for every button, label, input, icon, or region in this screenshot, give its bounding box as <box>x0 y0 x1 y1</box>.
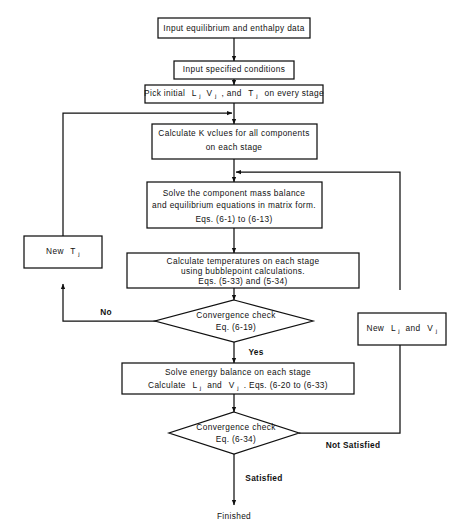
pick-initial-part2: , and <box>222 88 242 98</box>
node-convergence-check-1[interactable] <box>155 300 313 342</box>
solve-energy-var1: L <box>192 380 197 390</box>
pick-initial-var2: V <box>207 88 213 98</box>
node-solve-mass-balance-line1: Solve the component mass balance <box>163 188 306 198</box>
node-finished-label: Finished <box>217 511 251 521</box>
new-lj-vj-var1: L <box>391 323 396 333</box>
node-convergence-check-1-line1: Convergence check <box>196 310 276 320</box>
new-tj-prefix: New <box>46 246 64 256</box>
node-new-tj-label: New T j <box>46 246 80 257</box>
node-solve-mass-balance-line3: Eqs. (6-1) to (6-13) <box>195 214 272 224</box>
new-lj-vj-sub2: j <box>435 327 438 334</box>
flowchart-canvas: Input equilibrium and enthalpy data Inpu… <box>0 0 465 532</box>
edge-label-satisfied: Satisfied <box>245 473 282 483</box>
edge-convergence1-no-to-new-tj <box>63 284 170 321</box>
edge-label-yes: Yes <box>248 347 263 357</box>
node-convergence-check-2[interactable] <box>169 412 299 454</box>
node-solve-energy-balance-line1: Solve energy balance on each stage <box>165 367 311 377</box>
pick-initial-sub2: j <box>214 92 217 99</box>
solve-energy-line2a: Calculate <box>148 380 186 390</box>
node-calculate-temperatures-line3: Eqs. (5-33) and (5-34) <box>198 276 287 286</box>
node-convergence-check-1-line2: Eq. (6-19) <box>216 322 256 332</box>
pick-initial-part3: on every stage <box>265 88 324 98</box>
new-tj-sub: j <box>77 250 80 257</box>
solve-energy-line2b: . Eqs. (6-20 to (6-33) <box>244 380 328 390</box>
new-lj-vj-sub1: j <box>397 327 400 334</box>
solve-energy-sub1: j <box>199 384 202 391</box>
solve-energy-sub2: j <box>236 384 239 391</box>
node-calculate-k-values-line1: Calculate K vclues for all components <box>158 128 309 138</box>
edge-label-no: No <box>100 307 112 317</box>
new-lj-vj-var2: V <box>427 323 433 333</box>
node-convergence-check-2-line2: Eq. (6-34) <box>216 434 256 444</box>
node-convergence-check-2-line1: Convergence check <box>196 422 276 432</box>
pick-initial-var1: L <box>192 88 197 98</box>
pick-initial-part1: Pick initial <box>144 88 185 98</box>
node-input-conditions-label: Input specified conditions <box>183 64 285 74</box>
pick-initial-var3: T <box>248 88 253 98</box>
solve-energy-mid: and <box>207 380 222 390</box>
pick-initial-sub1: j <box>198 92 201 99</box>
pick-initial-sub3: j <box>255 92 258 99</box>
new-lj-vj-mid: and <box>406 323 421 333</box>
node-calculate-temperatures-line1: Calculate temperatures on each stage <box>167 256 320 266</box>
flowchart-svg: Input equilibrium and enthalpy data Inpu… <box>0 0 465 532</box>
solve-energy-var2: V <box>229 380 235 390</box>
new-tj-var: T <box>70 246 75 256</box>
node-calculate-k-values-line2: on each stage <box>206 142 263 152</box>
new-lj-vj-prefix: New <box>367 323 385 333</box>
edge-label-not-satisfied: Not Satisfied <box>326 440 381 450</box>
node-calculate-temperatures-line2: using bubblepoint calculations. <box>181 266 305 276</box>
node-input-data-label: Input equilibrium and enthalpy data <box>163 23 304 33</box>
node-solve-mass-balance-line2: and equilibrium equations in matrix form… <box>152 200 316 210</box>
